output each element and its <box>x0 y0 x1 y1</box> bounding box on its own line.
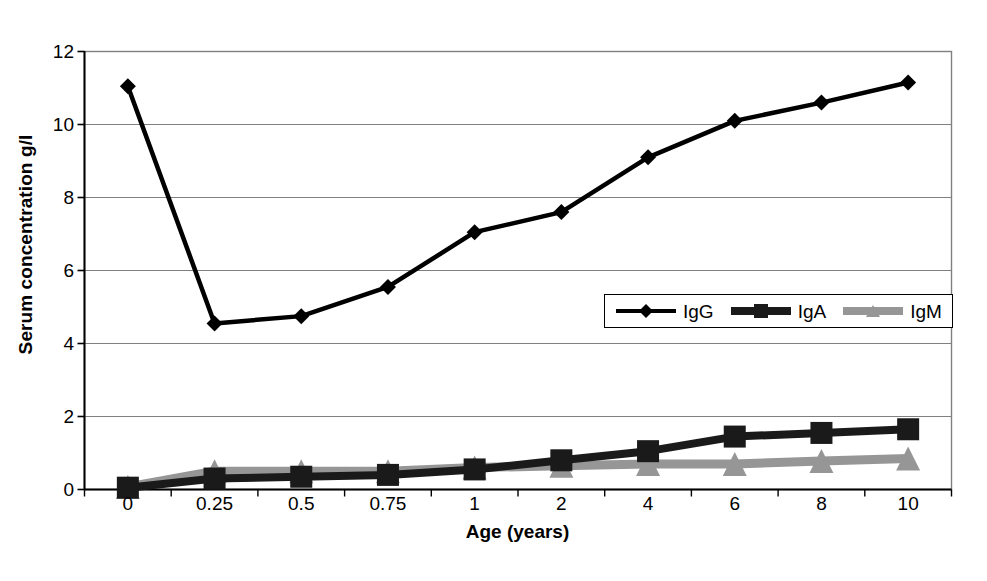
legend-swatch-square-icon <box>730 302 792 320</box>
x-tick-label: 0 <box>123 494 134 513</box>
y-axis-ticks <box>78 52 85 490</box>
x-tick-label: 2 <box>556 494 567 513</box>
legend-label-igg: IgG <box>683 302 714 321</box>
x-tick-label: 1 <box>469 494 480 513</box>
legend-label-igm: IgM <box>910 302 942 321</box>
legend-swatch-triangle-icon <box>842 302 904 320</box>
x-tick-label: 8 <box>816 494 827 513</box>
x-axis-title: Age (years) <box>84 521 951 543</box>
chart-container: Serum concentration g/l 12 10 8 6 4 2 0 … <box>0 0 987 581</box>
x-tick-label: 4 <box>643 494 654 513</box>
legend-item-igm: IgM <box>842 302 942 321</box>
legend-item-iga: IgA <box>730 302 827 321</box>
x-tick-label: 0.25 <box>196 494 233 513</box>
x-tick-label: 0.75 <box>369 494 406 513</box>
legend-item-igg: IgG <box>615 302 714 321</box>
chart-legend: IgG IgA IgM <box>604 294 953 328</box>
legend-swatch-diamond-icon <box>615 302 677 320</box>
legend-label-iga: IgA <box>798 302 827 321</box>
x-tick-label: 6 <box>729 494 740 513</box>
x-tick-label: 0.5 <box>288 494 314 513</box>
x-axis-tick-labels: 00.250.50.751246810 <box>84 494 951 520</box>
x-tick-label: 10 <box>898 494 919 513</box>
